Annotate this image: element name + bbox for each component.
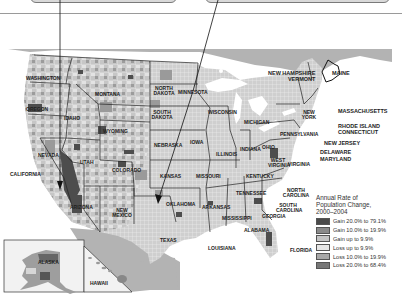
label-wisconsin: WISCONSIN [208,110,237,115]
label-nevada: NEVADA [38,153,59,158]
mexico-texas-area [140,256,178,290]
legend-label: Gain up to 9.9% [333,236,373,242]
label-nebraska: NEBRASKA [154,143,182,148]
label-alabama: ALABAMA [244,228,269,233]
label-kansas: KANSAS [160,174,181,179]
label-maine: MAINE [332,70,350,76]
label-idaho: IDAHO [64,116,80,121]
label-west-virginia: WEST VIRGINIA [268,158,288,168]
legend-title-line-1: Annual Rate of [316,194,402,201]
label-montana: MONTANA [95,92,120,97]
label-missouri: MISSOURI [196,174,221,179]
label-oregon: OREGON [26,107,48,112]
label-new-york: NEW YORK [300,110,318,120]
map-legend: Annual Rate of Population Change, 2000–2… [316,194,402,270]
legend-item-loss-up-to-9: Loss up to 9.9% [316,243,402,252]
legend-label: Gain 20.0% to 79.1% [333,218,386,224]
label-south-carolina: SOUTH CAROLINA [276,203,300,213]
label-north-carolina: NORTH CAROLINA [282,188,310,198]
label-tennessee: TENNESSEE [236,191,266,196]
label-florida: FLORIDA [290,248,312,253]
legend-label: Loss 10.0% to 19.9% [333,254,386,260]
legend-swatch [316,227,330,234]
label-maryland: MARYLAND [320,156,351,162]
legend-item-gain-up-to-9: Gain up to 9.9% [316,235,402,244]
legend-item-gain-20: Gain 20.0% to 79.1% [316,217,402,226]
label-pennsylvania: PENNSYLVANIA [280,132,318,137]
label-wyoming: WYOMING [103,129,128,134]
label-new-mexico: NEW MEXICO [110,208,134,218]
legend-swatch [316,235,330,242]
label-virginia: VIRGINIA [288,162,310,167]
label-arkansas: ARKANSAS [202,205,230,210]
label-michigan: MICHIGAN [244,120,269,125]
label-california: CALIFORNIA [10,172,41,177]
label-massachusetts: MASSACHUSETTS [338,108,388,114]
label-texas: TEXAS [160,238,177,243]
label-georgia: GEORGIA [262,214,286,219]
label-arizona: ARIZONA [70,205,93,210]
gulf-of-mexico [180,244,270,292]
legend-title-line-3: 2000–2004 [316,208,402,215]
label-hawaii: HAWAII [90,281,108,286]
label-ri-ct: RHODE ISLAND CONNECTICUT [338,123,380,135]
label-delaware: DELAWARE [320,149,351,155]
legend-item-loss-10: Loss 10.0% to 19.9% [316,252,402,261]
legend-swatch [316,244,330,251]
label-oklahoma: OKLAHOMA [166,202,195,207]
label-colorado: COLORADO [112,168,141,173]
label-connecticut: CONNECTICUT [338,129,378,135]
label-kentucky: KENTUCKY [246,174,274,179]
legend-label: Loss 20.0% to 68.4% [333,262,386,268]
legend-title-line-2: Population Change, [316,201,402,208]
legend-swatch [316,253,330,260]
legend-item-loss-20: Loss 20.0% to 68.4% [316,261,402,270]
label-ohio: OHIO [262,145,275,150]
label-alaska: ALASKA [38,260,59,265]
label-nh-vt: NEW HAMPSHIRE VERMONT [268,70,315,82]
label-new-jersey: NEW JERSEY [324,140,360,146]
label-indiana: INDIANA [240,147,261,152]
label-illinois: ILLINOIS [216,152,237,157]
label-minnesota: MINNESOTA [178,90,208,95]
legend-label: Loss up to 9.9% [333,245,373,251]
legend-swatch [316,262,330,269]
label-iowa: IOWA [190,140,203,145]
legend-swatch [316,218,330,225]
label-washington: WASHINGTON [26,76,60,81]
label-vermont: VERMONT [288,76,316,82]
label-south-dakota: SOUTH DAKOTA [148,110,176,120]
label-north-dakota: NORTH DAKOTA [150,86,178,96]
label-mississippi: MISSISSIPPI [222,216,252,221]
label-louisiana: LOUISIANA [208,246,236,251]
label-utah: UTAH [80,160,94,165]
legend-item-gain-10: Gain 10.0% to 19.9% [316,226,402,235]
legend-label: Gain 10.0% to 19.9% [333,227,386,233]
